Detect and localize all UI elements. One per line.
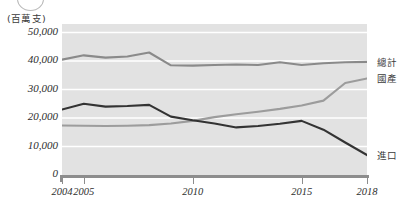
y-axis-tick-label: 50,000 bbox=[2, 25, 58, 37]
series-line-進口 bbox=[62, 104, 367, 155]
x-axis-tick-label: 2015 bbox=[291, 186, 312, 197]
y-axis-tick-label: 30,000 bbox=[2, 82, 58, 94]
series-line-國產 bbox=[62, 78, 367, 126]
chart-container: (百萬支) 010,00020,00030,00040,00050,000 20… bbox=[0, 0, 407, 213]
y-axis-tick-label: 0 bbox=[2, 167, 58, 179]
y-axis-tick-label: 20,000 bbox=[2, 110, 58, 122]
y-axis-tick-labels: 010,00020,00030,00040,00050,000 bbox=[0, 0, 58, 213]
series-line-總計 bbox=[62, 52, 367, 65]
legend-label-總計: 總計 bbox=[377, 55, 398, 69]
x-axis-tick-label: 2005 bbox=[73, 186, 94, 197]
legend-label-國產: 國產 bbox=[377, 71, 398, 85]
legend-label-進口: 進口 bbox=[377, 148, 398, 162]
y-axis-tick-label: 40,000 bbox=[2, 53, 58, 65]
x-axis-tick-mark bbox=[62, 178, 63, 184]
x-axis-tick-mark bbox=[193, 178, 194, 184]
x-axis-tick-mark bbox=[84, 178, 85, 184]
y-axis-tick-label: 10,000 bbox=[2, 139, 58, 151]
plot-area bbox=[62, 24, 367, 175]
x-axis-tick-label: 2004 bbox=[52, 186, 73, 197]
x-axis-line bbox=[60, 175, 369, 178]
x-axis-tick-label: 2018 bbox=[357, 186, 378, 197]
x-axis-tick-label: 2010 bbox=[182, 186, 203, 197]
x-axis-tick-mark bbox=[367, 178, 368, 184]
series-plot bbox=[62, 24, 367, 175]
x-axis-tick-mark bbox=[302, 178, 303, 184]
